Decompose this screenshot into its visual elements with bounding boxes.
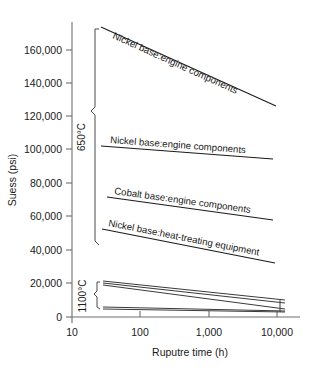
x-tick-label: 10 (66, 326, 78, 338)
y-axis-ticks (66, 50, 72, 317)
y-tick-label: 60,000 (30, 210, 62, 222)
y-tick-label: 140,000 (24, 77, 62, 89)
y-tick-label: 20,000 (30, 277, 62, 289)
temperature-brace-1100c (94, 282, 100, 309)
x-axis-tick-labels: 10 100 1,000 10,000 (66, 326, 293, 338)
chart-canvas: 160,000 140,000 120,000 100,000 80,000 6… (0, 0, 314, 368)
x-tick-label: 100 (131, 326, 149, 338)
rupture-stress-chart: 160,000 140,000 120,000 100,000 80,000 6… (0, 0, 314, 368)
temperature-brace-650c (91, 29, 99, 245)
series-line-1100c-2 (103, 283, 285, 303)
y-tick-label: 120,000 (24, 110, 62, 122)
x-tick-label: 1,000 (196, 326, 222, 338)
temperature-label-650c: 650°C (76, 123, 87, 151)
y-axis-tick-labels: 160,000 140,000 120,000 100,000 80,000 6… (24, 44, 62, 323)
series-label-cobalt-engine: Cobalt base:engine components (114, 185, 252, 215)
y-tick-label: 40,000 (30, 244, 62, 256)
x-tick-label: 10,000 (261, 326, 293, 338)
series-label-nickel-engine-1: Nickel base:engine components (111, 30, 240, 96)
y-tick-label: 80,000 (30, 177, 62, 189)
x-axis-title: Ruputre time (h) (152, 346, 228, 358)
y-axis-title: Suess (psi) (6, 154, 18, 207)
series-label-nickel-heat-treating: Nickel base:heat-treating equipment (108, 217, 261, 257)
y-tick-label: 100,000 (24, 143, 62, 155)
series-band-1100c (103, 281, 285, 312)
temperature-label-1100c: 1100°C (77, 280, 88, 313)
y-tick-label: 160,000 (24, 44, 62, 56)
y-tick-label: 0 (56, 311, 62, 323)
